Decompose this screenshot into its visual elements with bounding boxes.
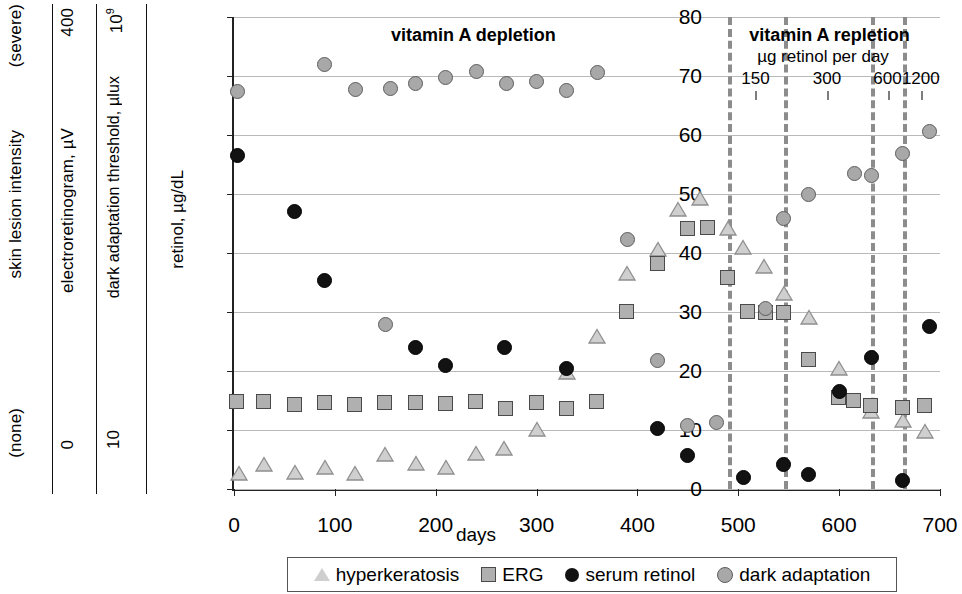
data-point-serum-retinol <box>408 340 423 355</box>
x-tick-mark <box>839 489 840 496</box>
y-gridline <box>234 135 940 136</box>
y-gridline <box>234 253 940 254</box>
left-axis-descriptors: (severe) skin lesion intensity (none) 40… <box>0 0 178 500</box>
y-tick-label: 80 <box>642 5 702 29</box>
data-point-ERG <box>377 395 392 410</box>
data-point-dark-adaptation <box>378 317 393 332</box>
data-point-ERG <box>347 397 362 412</box>
data-point-hyperkeratosis <box>800 309 818 325</box>
data-point-dark-adaptation <box>847 166 862 181</box>
legend-item-erg[interactable]: ERG <box>481 564 543 586</box>
data-point-dark-adaptation <box>590 65 605 80</box>
data-point-ERG <box>438 396 453 411</box>
data-point-dark-adaptation <box>230 84 245 99</box>
data-point-hyperkeratosis <box>528 421 546 437</box>
dose-tick-mark-600 <box>888 91 890 100</box>
data-point-ERG <box>650 256 665 271</box>
data-point-ERG <box>317 395 332 410</box>
data-point-hyperkeratosis <box>286 464 304 480</box>
y-tick-label: 30 <box>642 300 702 324</box>
data-point-hyperkeratosis <box>255 456 273 472</box>
plot-area: 010203040506070800100200300400500600700v… <box>232 17 940 491</box>
data-point-ERG <box>287 397 302 412</box>
axis-divider-1 <box>52 4 53 494</box>
y-tick-label: 0 <box>642 477 702 501</box>
data-point-dark-adaptation <box>801 187 816 202</box>
data-point-hyperkeratosis <box>734 239 752 255</box>
x-tick-mark <box>436 489 437 496</box>
data-point-serum-retinol <box>680 448 695 463</box>
legend-item-hyperkeratosis[interactable]: hyperkeratosis <box>314 564 460 586</box>
data-point-serum-retinol <box>438 358 453 373</box>
data-point-ERG <box>468 394 483 409</box>
dose-tick-mark-300 <box>827 91 829 100</box>
dose-tick-mark-1200 <box>921 91 923 100</box>
repletion-phase-label: vitamin A repletion <box>749 25 910 46</box>
data-point-dark-adaptation <box>758 301 773 316</box>
data-point-serum-retinol <box>230 148 245 163</box>
data-point-ERG <box>917 398 932 413</box>
data-point-ERG <box>895 400 910 415</box>
data-point-hyperkeratosis <box>437 459 455 475</box>
data-point-hyperkeratosis <box>755 258 773 274</box>
data-point-dark-adaptation <box>776 211 791 226</box>
y-tick-mark <box>227 76 234 77</box>
x-tick-mark <box>335 489 336 496</box>
skin-lesion-axis-title: skin lesion intensity <box>6 130 26 279</box>
data-point-hyperkeratosis <box>669 201 687 217</box>
grey-circle-icon <box>717 567 733 583</box>
data-point-ERG <box>229 394 244 409</box>
data-point-dark-adaptation <box>317 57 332 72</box>
y-tick-mark <box>227 312 234 313</box>
data-point-serum-retinol <box>895 473 910 488</box>
data-point-hyperkeratosis <box>376 446 394 462</box>
data-point-dark-adaptation <box>559 83 574 98</box>
erg-bottom-label: 0 <box>58 440 78 450</box>
data-point-hyperkeratosis <box>588 328 606 344</box>
legend-item-dark_adaptation[interactable]: dark adaptation <box>717 564 870 586</box>
data-point-ERG <box>529 395 544 410</box>
data-point-dark-adaptation <box>529 74 544 89</box>
data-point-serum-retinol <box>776 457 791 472</box>
x-tick-mark <box>637 489 638 496</box>
skin-lesion-bottom-label: (none) <box>6 408 26 458</box>
square-icon <box>481 567 496 582</box>
data-point-hyperkeratosis <box>230 465 248 481</box>
data-point-hyperkeratosis <box>691 190 709 206</box>
data-point-serum-retinol <box>832 384 847 399</box>
data-point-dark-adaptation <box>895 146 910 161</box>
data-point-ERG <box>619 304 634 319</box>
dose-label-1200: 1200 <box>886 69 956 89</box>
dose-tick-mark-150 <box>755 91 757 100</box>
data-point-dark-adaptation <box>650 353 665 368</box>
data-point-ERG <box>801 352 816 367</box>
data-point-hyperkeratosis <box>346 465 364 481</box>
dose-label-150: 150 <box>720 69 790 89</box>
data-point-hyperkeratosis <box>830 360 848 376</box>
data-point-ERG <box>589 394 604 409</box>
erg-axis-title: electroretinogram, µV <box>58 128 78 293</box>
data-point-ERG <box>256 394 271 409</box>
y-tick-mark <box>227 253 234 254</box>
data-point-serum-retinol <box>559 361 574 376</box>
x-tick-mark <box>940 489 941 496</box>
dark-adaptation-bottom-label: 10 <box>104 430 124 449</box>
skin-lesion-top-label: (severe) <box>6 4 26 67</box>
data-point-dark-adaptation <box>438 70 453 85</box>
legend-item-serum_retinol[interactable]: serum retinol <box>565 564 695 586</box>
data-point-ERG <box>680 221 695 236</box>
data-point-serum-retinol <box>864 350 879 365</box>
y-tick-mark <box>227 430 234 431</box>
x-tick-mark <box>537 489 538 496</box>
data-point-dark-adaptation <box>864 168 879 183</box>
dark-adaptation-top-label: 109 <box>104 8 127 33</box>
data-point-serum-retinol <box>287 204 302 219</box>
data-point-serum-retinol <box>497 340 512 355</box>
y-gridline <box>234 489 940 490</box>
data-point-ERG <box>740 304 755 319</box>
data-point-dark-adaptation <box>348 82 363 97</box>
data-point-hyperkeratosis <box>775 285 793 301</box>
data-point-dark-adaptation <box>499 76 514 91</box>
y-tick-label: 60 <box>642 123 702 147</box>
data-point-serum-retinol <box>317 273 332 288</box>
